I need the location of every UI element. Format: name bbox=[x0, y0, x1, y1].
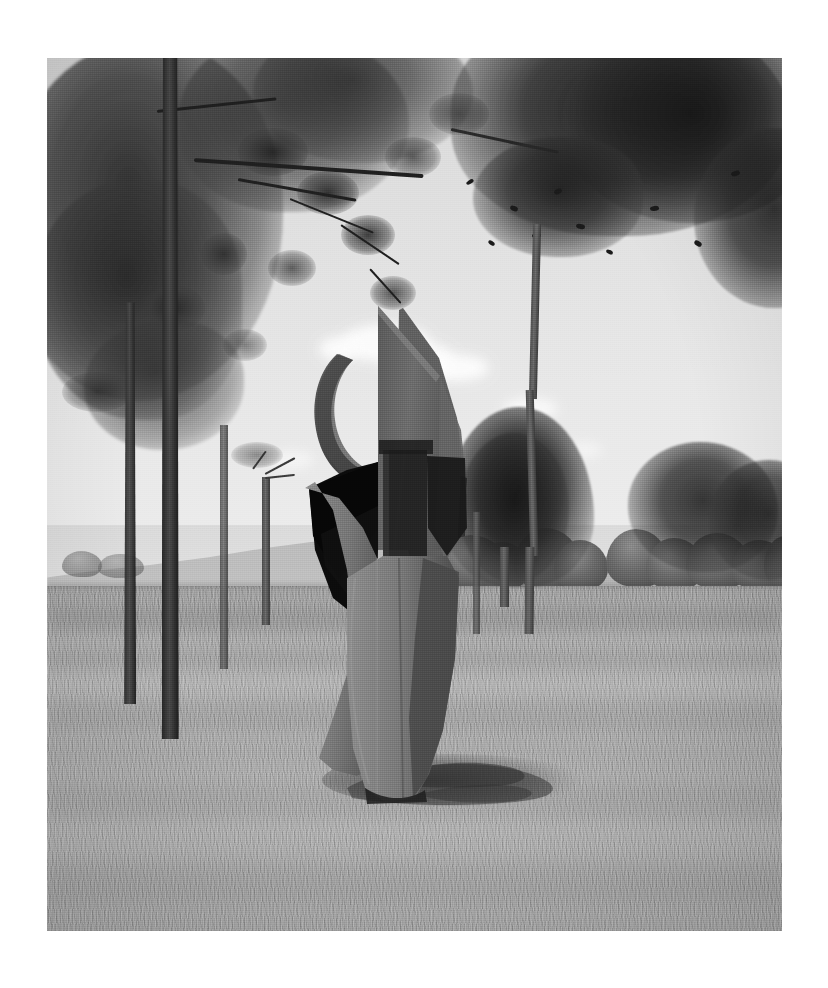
grass-shadow-band bbox=[47, 862, 782, 902]
hedge-left bbox=[98, 554, 144, 578]
tree-trunk-midground-right bbox=[473, 512, 480, 634]
pine-needle-cluster bbox=[268, 250, 316, 286]
cloud bbox=[429, 355, 489, 381]
pollarded-tree-midground bbox=[262, 477, 270, 625]
photograph bbox=[47, 58, 782, 931]
slim-tree-right-canopy bbox=[473, 137, 643, 257]
pine-needle-cluster bbox=[385, 137, 441, 177]
pine-tree-left-third bbox=[220, 425, 228, 669]
conifer-trunk bbox=[500, 547, 509, 607]
grass-shadow-band bbox=[47, 607, 782, 633]
pine-needle-cluster bbox=[201, 233, 247, 275]
horizon-line bbox=[47, 584, 782, 587]
grass-shadow-band bbox=[47, 648, 782, 670]
grass-shadow-band bbox=[47, 786, 782, 820]
pine-tree-left-foreground bbox=[162, 58, 179, 739]
pine-tree-left-second bbox=[124, 302, 136, 704]
hedge-left bbox=[62, 551, 102, 577]
grass-shadow-band bbox=[47, 700, 782, 730]
grass-lawn bbox=[47, 586, 782, 931]
slim-tree-right bbox=[524, 547, 534, 634]
pine-needle-cluster bbox=[62, 372, 132, 412]
page-root bbox=[0, 0, 828, 988]
pollarded-foliage bbox=[231, 442, 283, 468]
pine-needle-cluster bbox=[223, 329, 267, 361]
